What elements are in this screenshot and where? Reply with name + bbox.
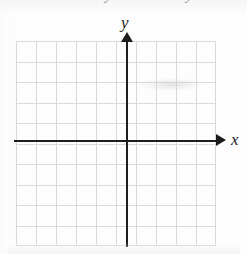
grid (16, 41, 216, 246)
gridline-horizontal (16, 205, 216, 206)
gridline-horizontal (16, 82, 216, 83)
figure-canvas: r m y y (0, 0, 247, 254)
gridline-horizontal (16, 62, 216, 63)
gridline-horizontal (16, 103, 216, 104)
x-axis-label: x (231, 131, 239, 148)
gridline-horizontal (16, 245, 216, 246)
y-axis (126, 38, 128, 247)
gridline-horizontal (16, 226, 216, 227)
gridline-horizontal (16, 164, 216, 165)
y-axis-arrow-icon (121, 32, 133, 42)
gridline-horizontal (16, 41, 216, 42)
y-axis-label: y (121, 14, 129, 31)
x-axis (14, 140, 222, 142)
gridline-horizontal (16, 144, 216, 145)
gridline-horizontal (16, 123, 216, 124)
gridline-horizontal (16, 185, 216, 186)
coordinate-plane: y x (0, 0, 247, 254)
x-axis-arrow-icon (216, 134, 226, 146)
